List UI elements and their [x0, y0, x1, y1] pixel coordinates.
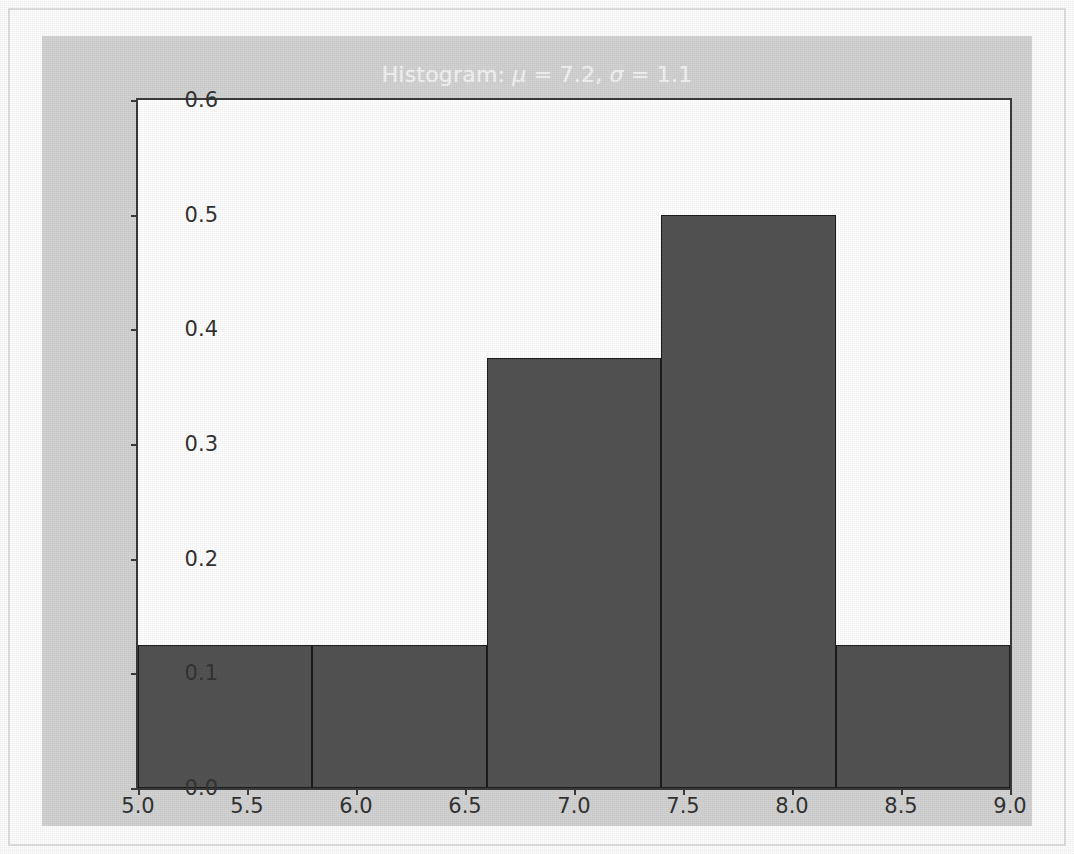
y-tick-mark	[131, 329, 138, 331]
x-tick-mark	[138, 788, 140, 795]
histogram-bar	[312, 645, 486, 788]
x-tick-mark	[683, 788, 685, 795]
chart-title: Histogram: μ = 7.2, σ = 1.1	[42, 62, 1032, 87]
x-tick-mark	[901, 788, 903, 795]
x-tick-mark	[356, 788, 358, 795]
y-tick-label: 0.1	[185, 661, 218, 685]
title-separator: ,	[595, 62, 609, 87]
x-tick-label: 8.0	[775, 794, 808, 818]
mu-value: 7.2	[560, 62, 596, 87]
x-tick-label: 9.0	[993, 794, 1026, 818]
mu-equals: =	[527, 62, 560, 87]
x-tick-mark	[574, 788, 576, 795]
matplotlib-figure: Histogram: μ = 7.2, σ = 1.1 0.00.10.20.3…	[42, 36, 1032, 826]
sigma-equals: =	[624, 62, 657, 87]
y-tick-mark	[131, 673, 138, 675]
sigma-value: 1.1	[657, 62, 693, 87]
x-tick-label: 7.5	[666, 794, 699, 818]
x-tick-label: 5.0	[121, 794, 154, 818]
y-tick-mark	[131, 215, 138, 217]
x-tick-label: 8.5	[884, 794, 917, 818]
sigma-symbol: σ	[610, 62, 624, 87]
histogram-bar	[487, 358, 661, 788]
y-tick-mark	[131, 559, 138, 561]
chart-title-prefix: Histogram:	[382, 62, 513, 87]
histogram-bar	[836, 645, 1010, 788]
y-tick-label: 0.5	[185, 203, 218, 227]
y-tick-label: 0.6	[185, 88, 218, 112]
x-tick-label: 5.5	[230, 794, 263, 818]
scanned-page: Histogram: μ = 7.2, σ = 1.1 0.00.10.20.3…	[0, 0, 1074, 854]
y-tick-label: 0.3	[185, 432, 218, 456]
x-tick-label: 6.0	[339, 794, 372, 818]
y-tick-mark	[131, 444, 138, 446]
histogram-bar	[661, 215, 835, 788]
y-tick-label: 0.2	[185, 547, 218, 571]
y-tick-mark	[131, 788, 138, 790]
x-tick-mark	[792, 788, 794, 795]
x-tick-label: 7.0	[557, 794, 590, 818]
plot-axes: 0.00.10.20.30.40.50.6 5.05.56.06.57.07.5…	[136, 98, 1012, 790]
x-tick-mark	[247, 788, 249, 795]
x-tick-mark	[1010, 788, 1012, 795]
plot-area	[138, 100, 1010, 788]
mu-symbol: μ	[512, 62, 526, 87]
x-tick-mark	[465, 788, 467, 795]
y-tick-mark	[131, 100, 138, 102]
y-tick-label: 0.4	[185, 317, 218, 341]
y-axis-tick-labels: 0.00.10.20.30.40.50.6	[124, 100, 218, 788]
x-tick-label: 6.5	[448, 794, 481, 818]
